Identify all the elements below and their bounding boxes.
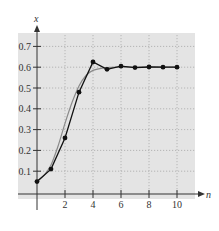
x-tick-label: 2 <box>63 199 68 210</box>
x-tick-label: 6 <box>119 199 124 210</box>
y-tick-label: 0.7 <box>19 41 32 52</box>
data-point <box>133 65 138 70</box>
data-point <box>35 179 40 184</box>
y-tick-label: 0.5 <box>19 83 32 94</box>
data-point <box>91 60 96 65</box>
x-axis-arrow-icon <box>198 191 205 197</box>
y-axis-label: x <box>33 13 39 24</box>
y-tick-label: 0.4 <box>19 103 32 114</box>
data-point <box>77 90 82 95</box>
y-axis-arrow-icon <box>34 25 40 32</box>
x-axis-label: n <box>206 189 211 200</box>
y-tick-label: 0.2 <box>19 145 32 156</box>
y-tick-label: 0.1 <box>19 166 32 177</box>
x-tick-label: 10 <box>172 199 182 210</box>
data-point <box>175 65 180 70</box>
data-point <box>119 64 124 69</box>
y-tick-label: 0.3 <box>19 124 32 135</box>
x-tick-label: 4 <box>91 199 96 210</box>
data-point <box>161 65 166 70</box>
chart: 2468100.10.20.30.40.50.60.7 n x <box>0 0 219 231</box>
x-tick-label: 8 <box>147 199 152 210</box>
data-point <box>105 67 110 72</box>
data-point <box>63 136 68 141</box>
data-point <box>49 167 54 172</box>
data-point <box>147 65 152 70</box>
y-tick-label: 0.6 <box>19 62 32 73</box>
